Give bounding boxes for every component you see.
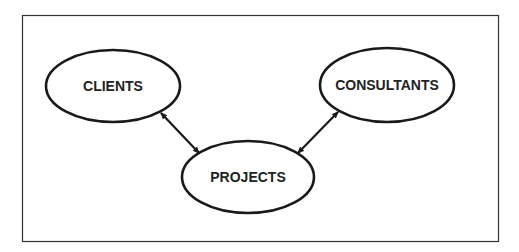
edge-consultants-projects-arrow xyxy=(298,112,338,153)
edge-clients-projects-arrow xyxy=(161,113,199,153)
relationship-diagram: CLIENTS CONSULTANTS PROJECTS xyxy=(0,0,519,252)
node-label-consultants: CONSULTANTS xyxy=(335,77,439,93)
node-projects: PROJECTS xyxy=(182,141,314,213)
node-clients: CLIENTS xyxy=(46,50,180,122)
node-label-clients: CLIENTS xyxy=(83,78,143,94)
node-label-projects: PROJECTS xyxy=(210,169,285,185)
node-consultants: CONSULTANTS xyxy=(320,48,454,122)
